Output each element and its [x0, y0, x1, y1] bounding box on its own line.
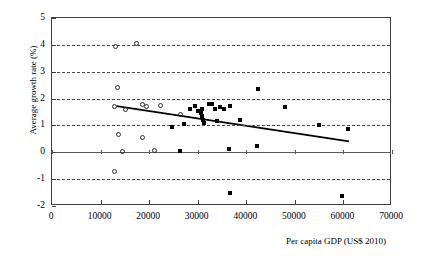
data-point: [112, 104, 117, 109]
y-tick-label--1: -1: [3, 173, 45, 183]
gridline-y--1: [52, 179, 390, 180]
y-tick-label-1: 1: [3, 119, 45, 129]
data-point: [193, 104, 197, 108]
x-tick-on-zero-50000: [295, 150, 296, 154]
data-point: [115, 85, 120, 90]
data-point: [158, 103, 163, 108]
data-point: [113, 44, 118, 49]
y-tick-label-4: 4: [3, 39, 45, 49]
data-point: [227, 147, 231, 151]
data-point: [202, 121, 206, 125]
x-tick-40000: [246, 200, 247, 204]
x-tick-30000: [198, 200, 199, 204]
y-tick-1: [52, 125, 56, 126]
y-tick-label-0: 0: [3, 146, 45, 156]
y-tick-label--2: -2: [3, 200, 45, 210]
gridline-y-2: [52, 99, 390, 100]
x-tick-on-zero-40000: [246, 150, 247, 154]
data-point: [213, 107, 217, 111]
data-point: [134, 41, 139, 46]
data-point: [228, 104, 232, 108]
data-point: [144, 104, 149, 109]
x-tick-10000: [101, 200, 102, 204]
x-tick-on-zero-70000: [392, 150, 393, 154]
x-tick-label-70000: 70000: [361, 211, 421, 221]
data-point: [188, 107, 192, 111]
y-tick-4: [52, 45, 56, 46]
y-tick-5: [52, 18, 56, 19]
data-point: [215, 119, 219, 123]
x-tick-on-zero-30000: [198, 150, 199, 154]
data-point: [210, 102, 214, 106]
y-tick--1: [52, 179, 56, 180]
trendline: [117, 106, 349, 141]
y-tick-label-5: 5: [3, 12, 45, 22]
data-point: [283, 105, 287, 109]
data-point: [340, 194, 344, 198]
data-point: [255, 144, 259, 148]
x-tick-on-zero-20000: [149, 150, 150, 154]
x-tick-on-zero-0: [52, 150, 53, 154]
y-tick--2: [52, 206, 56, 207]
data-point: [317, 123, 321, 127]
data-point: [222, 107, 226, 111]
zero-line: [52, 152, 390, 153]
y-tick-label-2: 2: [3, 93, 45, 103]
plot-area: [51, 17, 391, 205]
gridline-y-1: [52, 125, 390, 126]
scatter-chart-figure: Average growth rate (%) Per capita GDP (…: [0, 0, 446, 263]
data-point: [116, 132, 121, 137]
y-tick-3: [52, 72, 56, 73]
data-point: [182, 122, 186, 126]
data-point: [178, 112, 183, 117]
data-point: [200, 107, 204, 111]
data-point: [256, 87, 260, 91]
y-tick-label-3: 3: [3, 66, 45, 76]
y-tick-2: [52, 99, 56, 100]
x-axis-title: Per capita GDP (US$ 2010): [236, 236, 436, 246]
data-point: [238, 118, 242, 122]
gridline-y-4: [52, 45, 390, 46]
data-point: [228, 191, 232, 195]
data-point: [170, 125, 174, 129]
x-tick-60000: [343, 200, 344, 204]
data-point: [346, 127, 350, 131]
x-tick-50000: [295, 200, 296, 204]
data-point: [178, 149, 182, 153]
x-tick-on-zero-60000: [343, 150, 344, 154]
x-tick-on-zero-10000: [101, 150, 102, 154]
gridline-y-3: [52, 72, 390, 73]
x-tick-20000: [149, 200, 150, 204]
